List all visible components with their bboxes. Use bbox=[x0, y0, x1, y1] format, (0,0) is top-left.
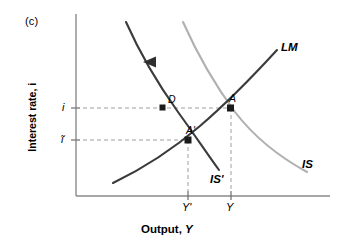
x-axis-title: Output, Y bbox=[141, 224, 193, 236]
point-label-a-prime: A' bbox=[186, 125, 195, 136]
x-tick-label-y: Y bbox=[226, 202, 233, 213]
is-lm-figure: (c) Interest rate, i Output, Y i ĩ Y' Y … bbox=[0, 0, 346, 246]
y-axis-title: Interest rate, i bbox=[27, 62, 38, 172]
y-tick-label-i-low: ĩ bbox=[61, 134, 63, 145]
plot-area bbox=[0, 0, 346, 246]
lm-curve-label: LM bbox=[281, 42, 298, 54]
point-marker-d bbox=[160, 105, 166, 111]
panel-label: (c) bbox=[25, 16, 38, 27]
x-axis-title-variable: Y bbox=[185, 223, 193, 235]
y-tick-label-i: i bbox=[62, 102, 64, 113]
x-tick-label-y-prime: Y' bbox=[182, 202, 191, 213]
point-marker-a-prime bbox=[185, 137, 192, 144]
is-curve-label: IS bbox=[302, 159, 313, 171]
point-label-a: A bbox=[229, 93, 236, 104]
is-prime-curve-label: IS' bbox=[210, 174, 224, 186]
guide-lines bbox=[76, 108, 231, 193]
point-label-d: D bbox=[168, 94, 176, 105]
x-axis-title-prefix: Output, bbox=[141, 223, 185, 235]
leftward-shift-arrow bbox=[143, 57, 196, 68]
lm-curve bbox=[113, 50, 277, 183]
point-marker-a bbox=[227, 105, 234, 112]
